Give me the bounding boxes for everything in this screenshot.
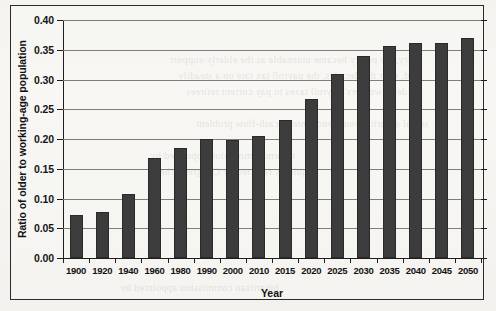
x-axis-tick (324, 258, 325, 263)
y-axis-title: Ratio of older to working-age population (14, 20, 30, 258)
bar (174, 148, 187, 258)
bar (435, 43, 448, 258)
bar (331, 74, 344, 258)
y-axis-tick-right (481, 228, 487, 229)
bar (96, 212, 109, 258)
x-axis-tick (63, 258, 64, 263)
y-axis-tick (57, 139, 63, 140)
y-axis-tick-label: 0.40 (34, 14, 54, 26)
bar (383, 46, 396, 258)
bar (305, 99, 318, 258)
y-axis-tick (57, 228, 63, 229)
y-axis-tick (57, 20, 63, 21)
x-axis-tick-label: 1990 (197, 265, 217, 276)
x-axis-tick (350, 258, 351, 263)
x-axis-tick (89, 258, 90, 263)
bar (252, 136, 265, 258)
bar (148, 158, 161, 258)
bar (357, 56, 370, 258)
y-axis-tick-right (481, 20, 487, 21)
x-axis-tick (246, 258, 247, 263)
x-axis-tick (377, 258, 378, 263)
x-axis-tick-label: 1940 (118, 265, 138, 276)
bar (70, 215, 83, 258)
x-axis-tick (141, 258, 142, 263)
x-axis-tick-label: 2035 (380, 265, 400, 276)
y-axis-tick-label: 0.20 (34, 133, 54, 145)
y-axis-tick-right (481, 169, 487, 170)
y-axis-tick-label: 0.05 (34, 222, 54, 234)
x-axis-tick (403, 258, 404, 263)
x-axis-tick (455, 258, 456, 263)
y-axis-tick-label: 0.30 (34, 74, 54, 86)
x-axis-tick (481, 258, 482, 263)
y-axis-tick (57, 169, 63, 170)
x-axis-tick-label: 2050 (458, 265, 478, 276)
y-axis-tick-right (481, 80, 487, 81)
y-axis-title-text: Ratio of older to working-age population (16, 40, 28, 238)
x-axis-tick (168, 258, 169, 263)
x-axis-tick-label: 2015 (275, 265, 295, 276)
y-axis-tick-right (481, 109, 487, 110)
y-axis-tick-label: 0.10 (34, 193, 54, 205)
x-axis-tick-label: 2045 (432, 265, 452, 276)
bar (279, 120, 292, 258)
y-axis-tick-label: 0.15 (34, 163, 54, 175)
bar (409, 43, 422, 258)
x-axis-tick-label: 1960 (144, 265, 164, 276)
y-axis-tick (57, 50, 63, 51)
x-axis-tick-label: 2030 (353, 265, 373, 276)
x-axis-tick-label: 2010 (249, 265, 269, 276)
x-axis-tick-label: 2040 (406, 265, 426, 276)
y-axis-tick-right (481, 139, 487, 140)
x-axis-tick (272, 258, 273, 263)
bar (226, 140, 239, 258)
x-axis-title: Year (63, 287, 481, 299)
bar (122, 194, 135, 258)
y-axis-tick (57, 80, 63, 81)
y-axis-tick (57, 109, 63, 110)
x-axis-tick-label: 1900 (66, 265, 86, 276)
x-axis-tick (220, 258, 221, 263)
x-axis-tick-label: 1980 (171, 265, 191, 276)
gridline (63, 20, 481, 21)
x-axis-tick (298, 258, 299, 263)
bar (200, 139, 213, 258)
y-axis-tick-label: 0.35 (34, 44, 54, 56)
y-axis-tick-label: 0.00 (34, 252, 54, 264)
x-axis-tick-label: 2020 (301, 265, 321, 276)
y-axis-tick-right (481, 50, 487, 51)
x-axis-tick (115, 258, 116, 263)
bar (461, 38, 474, 258)
x-axis-tick-label: 1920 (92, 265, 112, 276)
x-axis-tick-label: 2025 (327, 265, 347, 276)
y-axis-tick-label: 0.25 (34, 103, 54, 115)
y-axis-tick (57, 199, 63, 200)
chart-plot-area: 0.400.350.300.250.200.150.100.050.00 190… (63, 20, 481, 258)
x-axis-tick (194, 258, 195, 263)
x-axis-tick (429, 258, 430, 263)
x-axis-tick-label: 2000 (223, 265, 243, 276)
y-axis-tick-right (481, 199, 487, 200)
